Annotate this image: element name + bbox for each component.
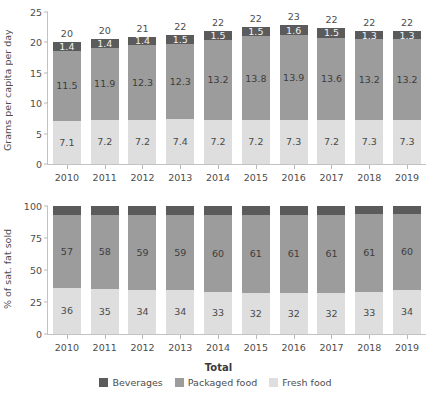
bar-segment-packaged[interactable]: 58 xyxy=(91,215,119,289)
bar-segment-beverages[interactable]: 1.5 xyxy=(166,35,194,44)
bar-slot[interactable]: 5934 xyxy=(124,206,162,334)
bar-segment-fresh[interactable]: 34 xyxy=(128,290,156,334)
bar-segment-beverages[interactable] xyxy=(128,206,156,215)
bar-segment-beverages[interactable]: 1.5 xyxy=(242,27,270,36)
stacked-bar[interactable]: 6034 xyxy=(393,206,421,334)
bar-segment-beverages[interactable]: 1.5 xyxy=(204,31,232,40)
stacked-bar[interactable]: 1.411.57.1 xyxy=(53,42,81,164)
stacked-bar[interactable]: 1.512.37.4 xyxy=(166,35,194,164)
bar-segment-packaged[interactable]: 61 xyxy=(317,215,345,293)
bar-segment-fresh[interactable]: 7.2 xyxy=(317,120,345,164)
bar-segment-fresh[interactable]: 32 xyxy=(317,293,345,334)
stacked-bar[interactable]: 5934 xyxy=(166,206,194,334)
legend-item[interactable]: Fresh food xyxy=(269,377,331,388)
bar-slot[interactable]: 221.513.87.2 xyxy=(237,12,275,164)
bar-slot[interactable]: 6033 xyxy=(199,206,237,334)
bar-slot[interactable]: 231.613.97.3 xyxy=(275,12,313,164)
bar-segment-fresh[interactable]: 35 xyxy=(91,289,119,334)
stacked-bar[interactable]: 5736 xyxy=(53,206,81,334)
bar-segment-fresh[interactable]: 33 xyxy=(204,292,232,334)
bar-segment-beverages[interactable]: 1.3 xyxy=(393,31,421,39)
bar-segment-packaged[interactable]: 11.9 xyxy=(91,48,119,120)
bar-segment-beverages[interactable] xyxy=(280,206,308,215)
stacked-bar[interactable]: 6132 xyxy=(242,206,270,334)
bar-segment-packaged[interactable]: 59 xyxy=(166,215,194,291)
bar-segment-fresh[interactable]: 34 xyxy=(166,290,194,334)
bar-segment-packaged[interactable]: 13.6 xyxy=(317,38,345,121)
stacked-bar[interactable]: 1.411.97.2 xyxy=(91,39,119,164)
bar-segment-fresh[interactable]: 7.1 xyxy=(53,121,81,164)
bar-segment-fresh[interactable]: 7.3 xyxy=(280,120,308,164)
bar-segment-fresh[interactable]: 32 xyxy=(280,293,308,334)
bar-segment-packaged[interactable]: 57 xyxy=(53,215,81,288)
bar-slot[interactable]: 221.513.67.2 xyxy=(313,12,351,164)
stacked-bar[interactable]: 1.513.27.2 xyxy=(204,31,232,164)
legend-item[interactable]: Packaged food xyxy=(175,377,257,388)
stacked-bar[interactable]: 5934 xyxy=(128,206,156,334)
bar-segment-packaged[interactable]: 13.2 xyxy=(393,39,421,119)
bar-segment-packaged[interactable]: 11.5 xyxy=(53,51,81,121)
bar-segment-fresh[interactable]: 34 xyxy=(393,290,421,334)
stacked-bar[interactable]: 6132 xyxy=(317,206,345,334)
stacked-bar[interactable]: 6133 xyxy=(355,206,383,334)
bar-segment-fresh[interactable]: 7.3 xyxy=(393,120,421,164)
bar-segment-beverages[interactable] xyxy=(53,206,81,215)
bar-segment-packaged[interactable]: 61 xyxy=(280,215,308,293)
stacked-bar[interactable]: 1.513.67.2 xyxy=(317,28,345,164)
bar-segment-beverages[interactable]: 1.6 xyxy=(280,25,308,35)
stacked-bar[interactable]: 1.313.27.3 xyxy=(355,31,383,164)
bar-segment-packaged[interactable]: 61 xyxy=(242,215,270,293)
bar-segment-packaged[interactable]: 59 xyxy=(128,215,156,291)
bar-slot[interactable]: 6034 xyxy=(388,206,426,334)
bar-segment-packaged[interactable]: 60 xyxy=(393,214,421,291)
bar-slot[interactable]: 6132 xyxy=(313,206,351,334)
bar-slot[interactable]: 6132 xyxy=(275,206,313,334)
bar-segment-beverages[interactable] xyxy=(355,206,383,214)
bar-segment-fresh[interactable]: 7.2 xyxy=(204,120,232,164)
bar-slot[interactable]: 5736 xyxy=(48,206,86,334)
bar-segment-beverages[interactable]: 1.4 xyxy=(128,37,156,46)
bar-slot[interactable]: 6133 xyxy=(350,206,388,334)
legend-item[interactable]: Beverages xyxy=(99,377,162,388)
bar-segment-beverages[interactable] xyxy=(204,206,232,215)
bar-segment-beverages[interactable] xyxy=(166,206,194,215)
bar-slot[interactable]: 211.412.37.2 xyxy=(124,12,162,164)
bar-segment-fresh[interactable]: 33 xyxy=(355,292,383,334)
bar-slot[interactable]: 5835 xyxy=(86,206,124,334)
bar-slot[interactable]: 5934 xyxy=(161,206,199,334)
bar-slot[interactable]: 201.411.97.2 xyxy=(86,12,124,164)
bar-slot[interactable]: 221.313.27.3 xyxy=(350,12,388,164)
bar-segment-beverages[interactable]: 1.4 xyxy=(53,42,81,51)
stacked-bar[interactable]: 1.613.97.3 xyxy=(280,25,308,164)
bar-slot[interactable]: 6132 xyxy=(237,206,275,334)
bar-segment-fresh[interactable]: 7.2 xyxy=(91,120,119,164)
bar-segment-fresh[interactable]: 7.3 xyxy=(355,120,383,164)
bar-segment-packaged[interactable]: 12.3 xyxy=(128,45,156,120)
bar-segment-beverages[interactable]: 1.3 xyxy=(355,31,383,39)
bar-segment-fresh[interactable]: 7.2 xyxy=(128,120,156,164)
stacked-bar[interactable]: 1.313.27.3 xyxy=(393,31,421,164)
bar-slot[interactable]: 201.411.57.1 xyxy=(48,12,86,164)
bar-slot[interactable]: 221.512.37.4 xyxy=(161,12,199,164)
bar-segment-packaged[interactable]: 60 xyxy=(204,215,232,292)
bar-segment-packaged[interactable]: 61 xyxy=(355,214,383,292)
stacked-bar[interactable]: 6132 xyxy=(280,206,308,334)
bar-segment-beverages[interactable]: 1.4 xyxy=(91,39,119,48)
bar-segment-fresh[interactable]: 7.4 xyxy=(166,119,194,164)
bar-segment-packaged[interactable]: 13.8 xyxy=(242,36,270,120)
bar-segment-packaged[interactable]: 13.2 xyxy=(355,39,383,119)
bar-segment-packaged[interactable]: 13.9 xyxy=(280,35,308,120)
bar-segment-beverages[interactable] xyxy=(317,206,345,215)
bar-slot[interactable]: 221.513.27.2 xyxy=(199,12,237,164)
bar-segment-packaged[interactable]: 13.2 xyxy=(204,40,232,120)
stacked-bar[interactable]: 1.412.37.2 xyxy=(128,37,156,164)
bar-segment-beverages[interactable] xyxy=(91,206,119,215)
bar-segment-fresh[interactable]: 7.2 xyxy=(242,120,270,164)
stacked-bar[interactable]: 5835 xyxy=(91,206,119,334)
bar-segment-beverages[interactable] xyxy=(242,206,270,215)
bar-segment-fresh[interactable]: 32 xyxy=(242,293,270,334)
stacked-bar[interactable]: 1.513.87.2 xyxy=(242,27,270,164)
bar-segment-beverages[interactable]: 1.5 xyxy=(317,28,345,37)
bar-segment-beverages[interactable] xyxy=(393,206,421,214)
stacked-bar[interactable]: 6033 xyxy=(204,206,232,334)
